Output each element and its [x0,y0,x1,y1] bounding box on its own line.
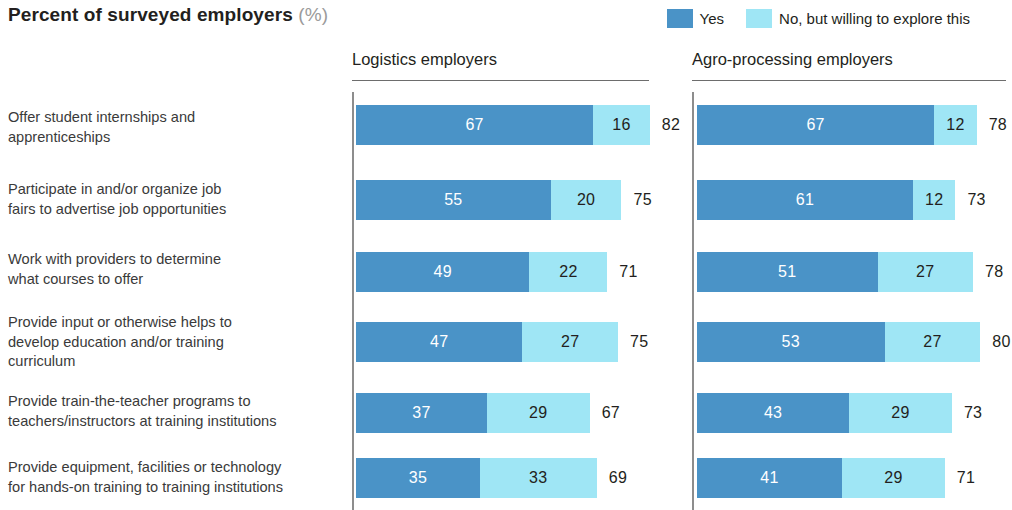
row-label-line: Work with providers to determine [8,250,344,270]
bar-value-yes: 67 [465,116,483,134]
row-label-line: what courses to offer [8,270,344,290]
bar-total-label: 71 [619,252,637,292]
bar-value-yes: 35 [409,469,427,487]
bar-value-yes: 61 [796,191,814,209]
bar-row[interactable]: 532780 [697,322,1012,362]
bar-total-label: 78 [985,252,1003,292]
bar-total-label: 78 [989,105,1007,145]
row-label-line: Participate in and/or organize job [8,180,344,200]
bar-segment-no[interactable]: 27 [878,252,974,292]
bar-total-label: 67 [602,393,620,433]
bar-value-no: 33 [529,469,547,487]
bar-row[interactable]: 372967 [356,393,653,433]
legend: Yes No, but willing to explore this [667,9,970,28]
bar-value-no: 22 [559,263,577,281]
bar-segment-no[interactable]: 12 [934,105,976,145]
row-label-line: Provide equipment, facilities or technol… [8,458,344,478]
bar-value-yes: 49 [434,263,452,281]
bar-value-yes: 67 [806,116,824,134]
bar-total-label: 82 [662,105,680,145]
bar-segment-yes[interactable]: 35 [356,458,480,498]
row-label: Provide input or otherwise helps todevel… [8,313,344,372]
bar-segment-no[interactable]: 20 [551,180,622,220]
bar-row[interactable]: 552075 [356,180,682,220]
bar-segment-yes[interactable]: 67 [697,105,934,145]
bar-segment-yes[interactable]: 55 [356,180,551,220]
bar-segment-no[interactable]: 29 [487,393,590,433]
bar-row[interactable]: 432973 [697,393,1012,433]
bar-row[interactable]: 412971 [697,458,1008,498]
row-label: Participate in and/or organize jobfairs … [8,180,344,219]
bar-value-no: 29 [891,404,909,422]
axis-line-agro [692,92,694,510]
legend-item-label: Yes [700,10,724,27]
bar-value-no: 29 [884,469,902,487]
bar-value-yes: 43 [764,404,782,422]
row-label: Provide equipment, facilities or technol… [8,458,344,497]
bar-row[interactable]: 512778 [697,252,1012,292]
row-label-line: Provide train-the-teacher programs to [8,392,344,412]
row-label-line: curriculum [8,352,344,372]
bar-segment-no[interactable]: 33 [480,458,597,498]
bar-segment-no[interactable]: 29 [849,393,952,433]
row-label-line: for hands-on training to training instit… [8,478,344,498]
bar-value-no: 27 [916,263,934,281]
bar-value-no: 12 [925,191,943,209]
axis-line-logistics [352,92,354,510]
page-title: Percent of surveyed employers (%) [8,4,328,26]
bar-value-no: 20 [577,191,595,209]
bar-value-yes: 55 [444,191,462,209]
bar-value-yes: 37 [412,404,430,422]
row-label-line: teachers/instructors at training institu… [8,412,344,432]
bar-total-label: 75 [630,322,648,362]
bar-value-no: 27 [923,333,941,351]
row-label: Offer student internships andapprentices… [8,108,344,147]
bar-segment-yes[interactable]: 67 [356,105,593,145]
row-label-line: develop education and/or training [8,333,344,353]
panel-header-agro: Agro-processing employers [692,50,1006,81]
bar-segment-no[interactable]: 27 [522,322,618,362]
bar-total-label: 75 [634,180,652,220]
bar-total-label: 73 [964,393,982,433]
bar-value-yes: 47 [430,333,448,351]
row-label-line: Offer student internships and [8,108,344,128]
page-title-text: Percent of surveyed employers [8,4,293,25]
row-label-line: fairs to advertise job opportunities [8,200,344,220]
row-label: Provide train-the-teacher programs totea… [8,392,344,431]
legend-item-label: No, but willing to explore this [779,10,970,27]
page-title-unit: (%) [298,4,328,25]
legend-item-no[interactable]: No, but willing to explore this [746,9,970,28]
row-label-line: Provide input or otherwise helps to [8,313,344,333]
bar-segment-yes[interactable]: 43 [697,393,849,433]
bar-segment-yes[interactable]: 51 [697,252,878,292]
legend-item-yes[interactable]: Yes [667,9,724,28]
bar-value-no: 27 [561,333,579,351]
bar-value-no: 16 [612,116,630,134]
square-swatch-icon [667,9,693,28]
bar-segment-yes[interactable]: 53 [697,322,885,362]
bar-row[interactable]: 671682 [356,105,706,145]
bar-row[interactable]: 472775 [356,322,682,362]
bar-total-label: 80 [992,322,1010,362]
bar-segment-no[interactable]: 22 [529,252,607,292]
bar-segment-no[interactable]: 27 [885,322,981,362]
bar-segment-yes[interactable]: 47 [356,322,522,362]
bar-segment-yes[interactable]: 49 [356,252,529,292]
square-swatch-icon [746,9,772,28]
row-label: Work with providers to determinewhat cou… [8,250,344,289]
bar-value-yes: 51 [778,263,796,281]
bar-row[interactable]: 611273 [697,180,1012,220]
bar-segment-yes[interactable]: 41 [697,458,842,498]
bar-segment-no[interactable]: 29 [842,458,945,498]
bar-value-no: 29 [529,404,547,422]
bar-row[interactable]: 353369 [356,458,660,498]
bar-row[interactable]: 492271 [356,252,667,292]
bar-segment-no[interactable]: 16 [593,105,650,145]
bar-segment-no[interactable]: 12 [913,180,955,220]
bar-segment-yes[interactable]: 61 [697,180,913,220]
row-label-line: apprenticeships [8,128,344,148]
bar-row[interactable]: 671278 [697,105,1012,145]
bar-total-label: 73 [967,180,985,220]
panel-header-logistics: Logistics employers [352,50,649,81]
bar-segment-yes[interactable]: 37 [356,393,487,433]
